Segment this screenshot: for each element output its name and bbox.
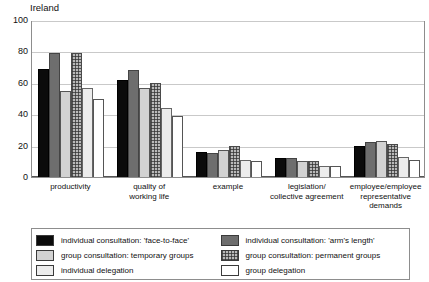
bar: [38, 69, 49, 177]
bar: [275, 158, 286, 177]
y-axis-tick-label: 80: [2, 47, 28, 56]
legend-label: group consultation: permanent groups: [246, 251, 381, 260]
legend-label: group delegation: [246, 266, 306, 275]
legend-swatch-icon: [36, 250, 54, 261]
legend-item[interactable]: individual delegation: [36, 263, 225, 278]
legend-swatch-icon: [36, 235, 54, 246]
chart-title: Ireland: [30, 2, 59, 13]
y-axis-tick-label: 40: [2, 110, 28, 119]
bar: [409, 160, 420, 177]
chart-container: Ireland 020406080100 productivityquality…: [0, 0, 429, 282]
bar: [139, 88, 150, 177]
legend-column-left: individual consultation: 'face-to-face'g…: [36, 233, 225, 278]
x-axis-tick-label-line: employee/employee: [334, 182, 429, 192]
bar: [196, 152, 207, 177]
bar: [376, 141, 387, 177]
legend-swatch-icon: [221, 235, 239, 246]
bar: [161, 108, 172, 177]
bar: [49, 53, 60, 177]
bar-group: [268, 22, 347, 177]
chart-legend: individual consultation: 'face-to-face'g…: [31, 228, 410, 280]
bar: [117, 80, 128, 177]
bar: [319, 166, 330, 177]
y-axis-tick-label: 0: [2, 173, 28, 182]
bar: [229, 146, 240, 177]
bar: [365, 142, 376, 177]
bar: [398, 157, 409, 177]
legend-item[interactable]: group consultation: temporary groups: [36, 248, 225, 263]
bar: [128, 70, 139, 177]
legend-label: group consultation: temporary groups: [61, 251, 194, 260]
bar: [207, 153, 218, 177]
bar: [251, 161, 262, 177]
bar: [82, 88, 93, 177]
x-axis-tick-label-line: working life: [98, 192, 201, 202]
y-axis-tick-label: 60: [2, 79, 28, 88]
legend-swatch-icon: [221, 250, 239, 261]
bar-group: [111, 22, 190, 177]
bar: [218, 150, 229, 177]
bar: [308, 161, 319, 177]
bar: [93, 99, 104, 178]
legend-label: individual consultation: 'arm's length': [246, 236, 375, 245]
legend-item[interactable]: group delegation: [221, 263, 410, 278]
x-axis-tick-label-line: representative: [334, 192, 429, 202]
bar: [150, 83, 161, 177]
legend-swatch-icon: [36, 265, 54, 276]
bar: [172, 116, 183, 177]
bar: [71, 53, 82, 177]
plot-area: [31, 21, 425, 178]
bar-group: [190, 22, 269, 177]
legend-column-right: individual consultation: 'arm's length'g…: [221, 233, 410, 278]
bar: [330, 166, 341, 177]
y-axis: 020406080100: [0, 21, 28, 178]
legend-item[interactable]: individual consultation: 'arm's length': [221, 233, 410, 248]
bar: [354, 146, 365, 177]
bar: [286, 158, 297, 177]
bar-group: [32, 22, 111, 177]
legend-label: individual consultation: 'face-to-face': [61, 236, 189, 245]
bar: [297, 161, 308, 177]
bar: [60, 91, 71, 177]
legend-swatch-icon: [221, 265, 239, 276]
legend-label: individual delegation: [61, 266, 134, 275]
y-axis-tick-label: 20: [2, 142, 28, 151]
bar: [240, 160, 251, 177]
legend-item[interactable]: individual consultation: 'face-to-face': [36, 233, 225, 248]
legend-item[interactable]: group consultation: permanent groups: [221, 248, 410, 263]
bar: [387, 144, 398, 177]
x-axis-tick-label: employee/employeerepresentativedemands: [334, 182, 429, 211]
x-axis-tick-label-line: demands: [334, 201, 429, 211]
bar-group: [347, 22, 426, 177]
y-axis-tick-label: 100: [2, 16, 28, 25]
